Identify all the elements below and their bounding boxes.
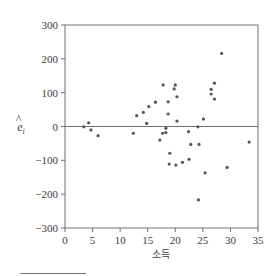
data-point bbox=[226, 166, 229, 169]
data-point bbox=[96, 134, 99, 137]
data-point bbox=[213, 82, 216, 85]
y-tick-label: −200 bbox=[35, 188, 58, 200]
data-point bbox=[158, 138, 161, 141]
data-point bbox=[142, 111, 145, 114]
data-point bbox=[181, 161, 184, 164]
y-tick-label: 300 bbox=[42, 19, 59, 31]
data-point bbox=[145, 122, 148, 125]
data-point bbox=[187, 130, 190, 133]
x-axis-label: 소득 bbox=[152, 249, 170, 260]
y-tick-label: −300 bbox=[35, 222, 58, 234]
data-point bbox=[210, 88, 213, 91]
data-point bbox=[168, 152, 171, 155]
x-tick-label: 35 bbox=[253, 234, 265, 246]
data-point bbox=[175, 95, 178, 98]
data-point bbox=[220, 52, 223, 55]
data-point bbox=[82, 125, 85, 128]
data-point bbox=[161, 132, 164, 135]
data-point bbox=[248, 140, 251, 143]
data-point bbox=[89, 128, 92, 131]
data-point bbox=[154, 101, 157, 104]
x-axis-ticks: 05101520253035 bbox=[62, 228, 264, 246]
data-point bbox=[162, 83, 165, 86]
data-point bbox=[187, 158, 190, 161]
data-point bbox=[202, 117, 205, 120]
x-tick-label: 0 bbox=[62, 234, 68, 246]
data-point bbox=[197, 198, 200, 201]
x-tick-label: 30 bbox=[225, 234, 237, 246]
y-tick-label: 200 bbox=[42, 53, 59, 65]
data-point bbox=[168, 162, 171, 165]
data-point bbox=[203, 171, 206, 174]
y-axis-label-subscript: i bbox=[23, 127, 25, 136]
footnote-rule bbox=[20, 273, 86, 274]
data-point bbox=[164, 127, 167, 130]
data-point bbox=[132, 132, 135, 135]
y-tick-label: 0 bbox=[53, 121, 59, 133]
data-point bbox=[175, 119, 178, 122]
x-tick-label: 25 bbox=[197, 234, 209, 246]
data-point bbox=[164, 131, 167, 134]
y-axis-ticks: −300−200−1000100200300 bbox=[35, 19, 65, 234]
residual-scatter-plot: −300−200−1000100200300 05101520253035 ei… bbox=[0, 0, 278, 276]
x-tick-label: 15 bbox=[142, 234, 154, 246]
data-point bbox=[174, 163, 177, 166]
x-tick-label: 5 bbox=[90, 234, 96, 246]
data-point bbox=[87, 121, 90, 124]
data-point bbox=[213, 97, 216, 100]
data-point bbox=[210, 92, 213, 95]
data-point bbox=[135, 114, 138, 117]
data-point bbox=[147, 105, 150, 108]
y-tick-label: −100 bbox=[35, 154, 58, 166]
data-point bbox=[189, 143, 192, 146]
y-tick-label: 100 bbox=[42, 87, 59, 99]
data-point bbox=[173, 87, 176, 90]
data-point bbox=[197, 143, 200, 146]
data-point bbox=[174, 83, 177, 86]
data-point bbox=[167, 100, 170, 103]
x-tick-label: 20 bbox=[170, 234, 182, 246]
data-point bbox=[196, 125, 199, 128]
x-tick-label: 10 bbox=[115, 234, 127, 246]
data-point bbox=[167, 112, 170, 115]
